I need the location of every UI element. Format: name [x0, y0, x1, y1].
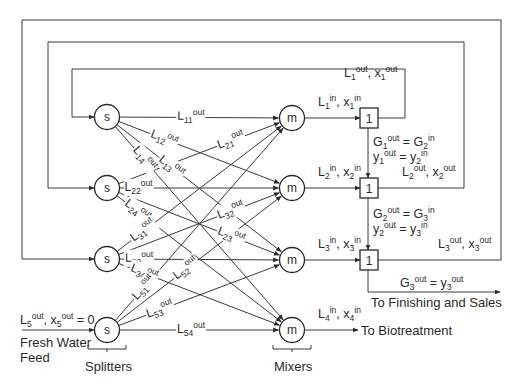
stream-label-L22: L22out	[124, 179, 154, 196]
stage-label: 1	[366, 254, 373, 268]
mixers-brace	[273, 345, 311, 352]
splitter-label: s	[104, 181, 110, 195]
water-network-diagram: ssssmmmm111 L1in, x1in L2in, x2in L3in, …	[0, 0, 523, 388]
stream-label-L54: L54out	[176, 321, 206, 338]
stage3-liquid-out-label: L3out, x3out	[438, 236, 491, 253]
stage-label: 1	[366, 182, 373, 196]
mixer-label: m	[287, 181, 297, 195]
to-biotreatment-label: To Biotreatment	[361, 324, 452, 337]
splitter-label: s	[104, 323, 110, 337]
gas-2-3-composition-label: y2out = y3in	[373, 221, 428, 238]
stage1-liquid-out-label: L1out, x1out	[344, 65, 397, 82]
mixer1-output-label: L1in, x1in	[318, 94, 361, 111]
mixer3-output-label: L3in, x3in	[318, 236, 361, 253]
mixers-caption: Mixers	[274, 360, 312, 373]
fresh-feed-equation: L5out, x5out = 0	[20, 312, 94, 329]
fresh-feed-label-1: Fresh Water	[20, 336, 91, 349]
mixer-label: m	[287, 323, 297, 337]
mixer4-output-label: L4in, x4in	[318, 306, 361, 323]
stage2-liquid-out-label: L2out, x2out	[402, 164, 455, 181]
splitters-caption: Splitters	[85, 360, 132, 373]
splitters-brace	[88, 345, 126, 352]
splitter-label: s	[104, 110, 110, 124]
to-finishing-label: To Finishing and Sales	[371, 296, 502, 309]
mixer2-output-label: L2in, x2in	[318, 164, 361, 181]
stream-label-L11: L11out	[176, 108, 205, 125]
fresh-feed-label-2: Feed	[20, 351, 50, 364]
stage-label: 1	[366, 112, 373, 126]
splitter-label: s	[104, 252, 110, 266]
gas-1-2-composition-label: y1out = y2in	[373, 149, 428, 166]
mixer-label: m	[287, 253, 297, 267]
gas-out-label: G3out = y3out	[400, 275, 463, 292]
mixer-label: m	[287, 111, 297, 125]
